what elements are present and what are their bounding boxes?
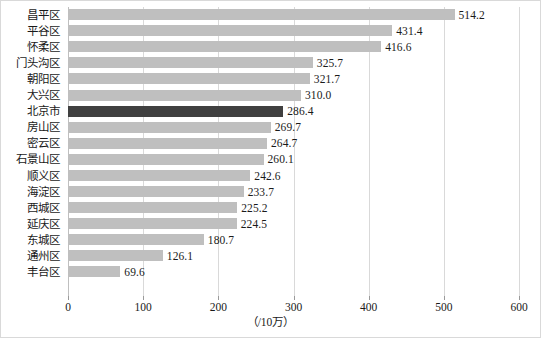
axis-tick-label: 500 (435, 301, 452, 313)
bar-row: 269.7 (68, 119, 519, 135)
category-label: 通州区 (27, 248, 60, 264)
bar (68, 122, 271, 133)
bar-value-label: 286.4 (287, 105, 313, 117)
bar-value-label: 325.7 (317, 57, 343, 69)
bar-highlighted (68, 106, 283, 117)
bar-row: 310.0 (68, 87, 519, 103)
bar-value-label: 431.4 (396, 25, 422, 37)
axis-tick (218, 296, 219, 300)
bar-value-label: 224.5 (241, 218, 267, 230)
category-label: 朝阳区 (27, 71, 60, 87)
bar-value-label: 126.1 (167, 250, 193, 262)
axis-tick (294, 296, 295, 300)
axis-tick-label: 200 (210, 301, 227, 313)
axis-tick (519, 296, 520, 300)
bar (68, 73, 310, 84)
category-label: 东城区 (27, 232, 60, 248)
bar-row: 286.4 (68, 103, 519, 119)
category-label: 延庆区 (27, 216, 60, 232)
bar-value-label: 69.6 (124, 266, 145, 278)
bar-row: 180.7 (68, 232, 519, 248)
bar (68, 186, 244, 197)
category-label: 门头沟区 (16, 55, 60, 71)
category-label: 丰台区 (27, 264, 60, 280)
bar (68, 218, 237, 229)
axis-tick (143, 296, 144, 300)
bar-row: 233.7 (68, 184, 519, 200)
bar-row: 69.6 (68, 264, 519, 280)
bar-chart: 昌平区平谷区怀柔区门头沟区朝阳区大兴区北京市房山区密云区石景山区顺义区海淀区西城… (0, 0, 541, 338)
bar-value-label: 310.0 (305, 89, 331, 101)
bar-value-label: 514.2 (459, 9, 485, 21)
category-label: 房山区 (27, 119, 60, 135)
bar-row: 325.7 (68, 55, 519, 71)
axis-tick-label: 600 (510, 301, 527, 313)
bar-value-label: 180.7 (208, 234, 234, 246)
bar (68, 57, 313, 68)
bar (68, 90, 301, 101)
category-label: 西城区 (27, 200, 60, 216)
axis-tick (68, 296, 69, 300)
category-axis-labels: 昌平区平谷区怀柔区门头沟区朝阳区大兴区北京市房山区密云区石景山区顺义区海淀区西城… (1, 7, 64, 296)
bar-row: 264.7 (68, 135, 519, 151)
bar-row: 225.2 (68, 200, 519, 216)
category-label: 石景山区 (16, 151, 60, 167)
bar-row: 242.6 (68, 168, 519, 184)
bar (68, 154, 264, 165)
bar-value-label: 269.7 (275, 121, 301, 133)
bar-value-label: 242.6 (254, 170, 280, 182)
bar-value-label: 264.7 (271, 137, 297, 149)
bar-row: 260.1 (68, 151, 519, 167)
bar-row: 431.4 (68, 23, 519, 39)
category-label: 密云区 (27, 135, 60, 151)
bar (68, 9, 455, 20)
bar (68, 41, 381, 52)
category-label: 北京市 (27, 103, 60, 119)
plot-area: 514.2431.4416.6325.7321.7310.0286.4269.7… (68, 7, 519, 296)
bar (68, 138, 267, 149)
bar-row: 224.5 (68, 216, 519, 232)
bar (68, 170, 250, 181)
bar-series: 514.2431.4416.6325.7321.7310.0286.4269.7… (68, 7, 519, 296)
bar (68, 250, 163, 261)
bar-value-label: 416.6 (385, 41, 411, 53)
bar-value-label: 321.7 (314, 73, 340, 85)
x-axis-title: （/10万） (1, 313, 540, 329)
axis-tick-label: 300 (285, 301, 302, 313)
bar-value-label: 260.1 (268, 153, 294, 165)
category-label: 海淀区 (27, 184, 60, 200)
gridline (519, 7, 520, 296)
bar-row: 514.2 (68, 7, 519, 23)
category-label: 大兴区 (27, 87, 60, 103)
bar (68, 25, 392, 36)
category-label: 昌平区 (27, 7, 60, 23)
bar-row: 416.6 (68, 39, 519, 55)
category-label: 顺义区 (27, 168, 60, 184)
bar (68, 202, 237, 213)
axis-tick (369, 296, 370, 300)
bar-row: 321.7 (68, 71, 519, 87)
bar-value-label: 225.2 (241, 202, 267, 214)
bar (68, 234, 204, 245)
bar-row: 126.1 (68, 248, 519, 264)
bar-value-label: 233.7 (248, 186, 274, 198)
axis-tick-label: 0 (65, 301, 71, 313)
axis-tick-label: 400 (360, 301, 377, 313)
category-label: 平谷区 (27, 23, 60, 39)
axis-tick (444, 296, 445, 300)
category-label: 怀柔区 (27, 39, 60, 55)
bar (68, 266, 120, 277)
axis-tick-label: 100 (135, 301, 152, 313)
